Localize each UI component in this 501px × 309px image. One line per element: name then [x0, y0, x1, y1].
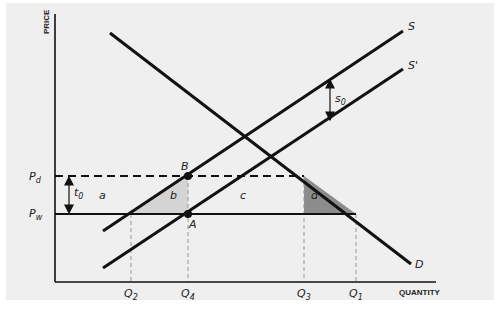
q2-label: Q2	[124, 287, 138, 302]
tariff-label: t0	[74, 186, 83, 201]
area-b-label: b	[170, 189, 177, 202]
area-d-label: d	[311, 189, 319, 202]
world-price-label: Pw	[29, 207, 43, 222]
q3-label: Q3	[297, 287, 311, 302]
domestic-price-label: Pd	[29, 170, 42, 185]
q4-label: Q4	[181, 287, 195, 302]
point-a	[184, 210, 192, 218]
point-a-label: A	[188, 218, 197, 231]
area-c-label: c	[240, 189, 246, 202]
point-b	[184, 172, 192, 180]
point-b-label: B	[181, 160, 189, 173]
demand-curve	[110, 33, 411, 264]
supply-label: S	[408, 20, 415, 33]
demand-label: D	[415, 258, 423, 271]
supply-curve-s-prime	[103, 69, 403, 268]
y-axis-label: PRICE	[42, 9, 51, 34]
supply-demand-diagram: PRICE QUANTITY S S' D Pd Pw Q2 Q4 Q3 Q1 …	[0, 0, 501, 309]
area-a-label: a	[99, 189, 106, 202]
subsidy-arrow	[326, 80, 334, 120]
supply-shifted-label: S'	[408, 59, 418, 72]
q1-label: Q1	[349, 287, 363, 302]
tariff-arrow	[65, 177, 73, 213]
subsidy-label: s0	[335, 92, 346, 107]
x-axis-label: QUANTITY	[399, 288, 441, 297]
